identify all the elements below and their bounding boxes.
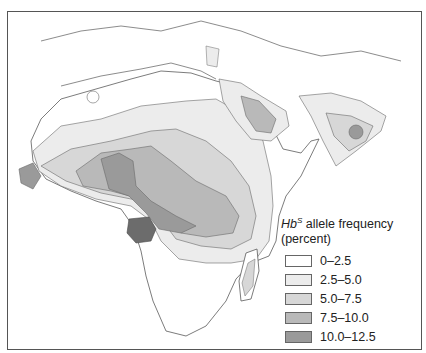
- legend-label: 0–2.5: [320, 254, 351, 268]
- legend-label: 5.0–7.5: [320, 292, 362, 306]
- greece-patch: [206, 46, 219, 67]
- legend-swatch: [285, 293, 312, 305]
- legend-item: 10.0–12.5: [285, 327, 421, 346]
- legend-item: 2.5–5.0: [285, 270, 421, 289]
- legend-item: 7.5–10.0: [285, 308, 421, 327]
- legend-title-unit: (percent): [281, 232, 331, 246]
- map-frame: HbS allele frequency (percent) 0–2.5 2.5…: [7, 11, 422, 350]
- legend-item: > 12.5: [285, 346, 421, 350]
- legend-label: 7.5–10.0: [320, 311, 369, 325]
- legend-swatch: [285, 331, 312, 343]
- algeria-patch: [87, 91, 99, 103]
- europe-coastline: [41, 21, 401, 61]
- legend-title-gene: Hb: [281, 217, 297, 231]
- zone-india-core: [349, 125, 363, 139]
- legend-item: 0–2.5: [285, 251, 421, 270]
- legend-item: 5.0–7.5: [285, 289, 421, 308]
- legend: HbS allele frequency (percent) 0–2.5 2.5…: [281, 213, 421, 350]
- legend-swatch: [285, 255, 312, 267]
- legend-swatch: [285, 274, 312, 286]
- legend-label: 2.5–5.0: [320, 273, 362, 287]
- legend-title: HbS allele frequency (percent): [281, 213, 421, 247]
- legend-swatch: [285, 312, 312, 324]
- legend-label: 10.0–12.5: [320, 330, 376, 344]
- legend-label: > 12.5: [320, 349, 355, 350]
- legend-title-text: allele frequency: [302, 217, 393, 231]
